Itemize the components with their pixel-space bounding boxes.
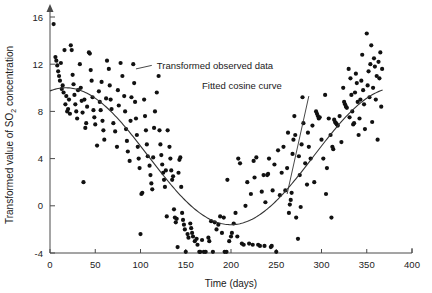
data-point xyxy=(137,157,141,161)
data-point xyxy=(58,79,62,83)
data-point xyxy=(299,205,303,209)
data-point xyxy=(324,192,328,196)
data-point xyxy=(360,53,364,57)
data-point xyxy=(59,61,63,65)
x-tick-label-400: 400 xyxy=(404,259,420,270)
data-point xyxy=(174,220,178,224)
data-point xyxy=(354,72,358,76)
data-point xyxy=(190,231,194,235)
x-tick-label-350: 350 xyxy=(359,259,375,270)
data-point xyxy=(372,56,376,60)
data-point xyxy=(151,155,155,159)
data-point xyxy=(92,115,96,119)
data-point xyxy=(236,157,240,161)
data-point xyxy=(323,93,327,97)
data-point xyxy=(249,192,253,196)
data-point xyxy=(258,244,262,248)
y-tick-label-16: 16 xyxy=(32,12,43,23)
data-point xyxy=(71,82,75,86)
data-point xyxy=(357,116,361,120)
data-point xyxy=(163,185,167,189)
data-point xyxy=(263,200,267,204)
data-point xyxy=(168,157,172,161)
data-point xyxy=(120,74,124,78)
data-point xyxy=(129,95,133,99)
data-point xyxy=(380,67,384,71)
data-point xyxy=(280,171,284,175)
data-point xyxy=(52,22,56,26)
data-point xyxy=(135,133,139,137)
x-tick-label-250: 250 xyxy=(268,259,284,270)
data-point xyxy=(270,244,274,248)
data-point xyxy=(157,74,161,78)
data-point xyxy=(85,105,89,109)
data-point xyxy=(195,243,199,247)
data-point xyxy=(72,93,76,97)
x-tick-label-0: 0 xyxy=(47,259,52,270)
data-point xyxy=(260,190,264,194)
data-point xyxy=(91,108,95,112)
data-point xyxy=(136,145,140,149)
data-point xyxy=(93,122,97,126)
data-point xyxy=(128,159,132,163)
data-point xyxy=(319,138,323,142)
x-axis-title: Time (days) xyxy=(205,278,257,289)
data-point xyxy=(294,216,298,220)
data-point xyxy=(128,119,132,123)
data-point xyxy=(369,43,373,47)
data-point xyxy=(169,168,173,172)
data-point xyxy=(347,115,351,119)
data-point xyxy=(83,126,87,130)
observed-data-leader-line xyxy=(136,65,152,69)
data-point xyxy=(321,157,325,161)
data-point xyxy=(348,76,352,80)
data-point xyxy=(262,244,266,248)
data-point xyxy=(345,106,349,110)
data-point xyxy=(67,98,71,102)
data-point xyxy=(118,61,122,65)
data-point xyxy=(355,81,359,85)
data-point xyxy=(353,90,357,94)
data-point xyxy=(122,94,126,98)
data-point xyxy=(123,109,127,113)
data-point xyxy=(252,159,256,163)
observed-data-annotation-label: Transformed observed data xyxy=(157,60,274,71)
data-point xyxy=(172,207,176,211)
data-point xyxy=(69,43,73,47)
data-point xyxy=(186,236,190,240)
data-point xyxy=(184,250,188,254)
y-tick-label-12: 12 xyxy=(32,59,43,70)
data-point xyxy=(366,69,370,73)
data-point xyxy=(152,126,156,130)
data-point xyxy=(143,114,147,118)
data-point xyxy=(341,86,345,90)
y-axis-arrow-icon xyxy=(47,4,54,12)
data-point xyxy=(254,155,258,159)
data-point xyxy=(296,237,300,241)
data-point xyxy=(325,166,329,170)
data-point xyxy=(230,231,234,235)
data-point xyxy=(157,128,161,132)
data-point xyxy=(82,98,86,102)
data-point xyxy=(363,127,367,131)
data-point xyxy=(220,231,224,235)
data-point xyxy=(164,168,168,172)
data-point xyxy=(159,153,163,157)
data-point xyxy=(99,80,103,84)
data-point xyxy=(181,218,185,222)
data-point xyxy=(57,74,61,78)
data-point xyxy=(368,62,372,66)
data-point xyxy=(176,171,180,175)
data-point xyxy=(305,182,309,186)
data-point xyxy=(176,245,180,249)
data-point xyxy=(227,239,231,243)
data-point xyxy=(171,174,175,178)
data-point xyxy=(107,67,111,71)
data-point xyxy=(245,180,249,184)
data-point xyxy=(191,234,195,238)
data-point xyxy=(225,178,229,182)
data-point xyxy=(150,187,154,191)
data-point xyxy=(288,203,292,207)
data-point xyxy=(115,145,119,149)
data-point xyxy=(71,73,75,77)
